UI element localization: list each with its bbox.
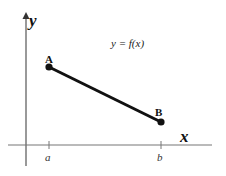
- point-b-label: B: [155, 106, 163, 118]
- y-axis-label: y: [27, 11, 37, 30]
- tick-a-label: a: [45, 151, 51, 163]
- function-label: y = f(x): [110, 37, 144, 50]
- x-axis-label: x: [179, 127, 189, 146]
- point-a-label: A: [45, 53, 53, 65]
- segment-ab: [49, 67, 161, 122]
- point-b: [157, 118, 164, 125]
- tick-b-label: b: [157, 151, 163, 163]
- function-graph: A B y x a b y = f(x): [0, 0, 226, 176]
